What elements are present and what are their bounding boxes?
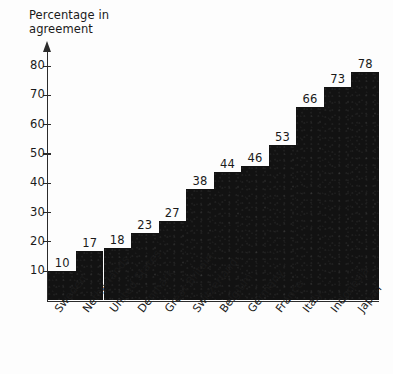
y-axis-tick-label: 40 [5, 175, 45, 189]
bar-value-label: 78 [345, 57, 385, 71]
y-axis-tick-label: 60 [5, 117, 45, 131]
bar[interactable] [296, 107, 325, 300]
plot-area: 1020304050607080 10171823273844465366737… [0, 0, 393, 374]
y-axis-tick-label: 70 [5, 87, 45, 101]
y-axis-arrow-icon [43, 41, 51, 52]
chart-figure: Percentage in agreement 1020304050607080… [0, 0, 393, 374]
y-axis-tick-label: 30 [5, 205, 45, 219]
y-axis-tick-label: 80 [5, 58, 45, 72]
y-axis-tick-label: 50 [5, 146, 45, 160]
y-axis-tick-label: 20 [5, 234, 45, 248]
bar[interactable] [324, 87, 353, 301]
y-axis-tick-label: 10 [5, 263, 45, 277]
bar[interactable] [351, 72, 380, 301]
